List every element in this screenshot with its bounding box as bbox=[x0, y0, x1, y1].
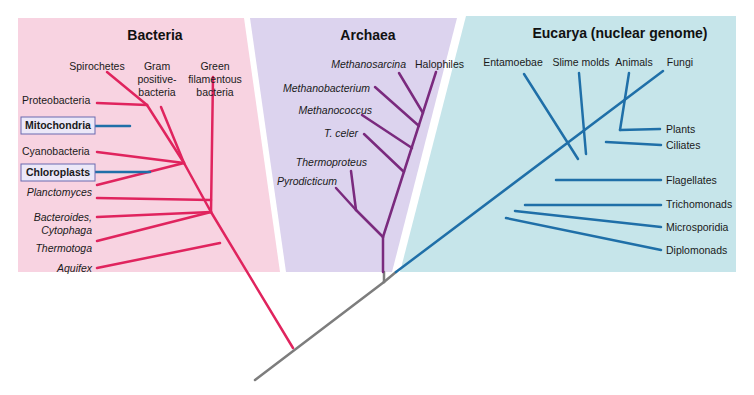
label-green-2: filamentous bbox=[188, 73, 242, 85]
label-slime-molds: Slime molds bbox=[552, 56, 609, 68]
label-aquifex: Aquifex bbox=[56, 262, 93, 274]
label-t-celer: T. celer bbox=[324, 127, 359, 139]
label-spirochetes: Spirochetes bbox=[69, 60, 124, 72]
label-cyanobacteria: Cyanobacteria bbox=[22, 145, 90, 157]
label-methanobacterium: Methanobacterium bbox=[283, 82, 370, 94]
label-microsporidia: Microsporidia bbox=[666, 221, 729, 233]
archaea-title: Archaea bbox=[340, 27, 395, 43]
label-cytophaga: Cytophaga bbox=[41, 224, 92, 236]
label-bacteroides: Bacteroides, bbox=[34, 211, 92, 223]
bacteria-title: Bacteria bbox=[127, 27, 182, 43]
label-diplomonads: Diplomonads bbox=[666, 244, 727, 256]
label-mitochondria: Mitochondria bbox=[25, 119, 91, 131]
label-animals: Animals bbox=[615, 56, 652, 68]
label-gram-3: bacteria bbox=[138, 86, 176, 98]
label-entamoebae: Entamoebae bbox=[483, 56, 543, 68]
label-green-1: Green bbox=[200, 60, 229, 72]
phylogenetic-tree: Bacteria Archaea Eucarya (nuclear genome… bbox=[0, 0, 754, 395]
label-pyrodicticum: Pyrodicticum bbox=[277, 175, 337, 187]
label-ciliates: Ciliates bbox=[666, 139, 700, 151]
label-fungi: Fungi bbox=[667, 56, 693, 68]
label-trichomonads: Trichomonads bbox=[666, 198, 732, 210]
label-flagellates: Flagellates bbox=[666, 174, 717, 186]
label-gram-1: Gram bbox=[144, 60, 171, 72]
label-methanosarcina: Methanosarcina bbox=[331, 58, 406, 70]
root-branches bbox=[255, 272, 396, 380]
label-plants: Plants bbox=[666, 123, 695, 135]
label-planctomyces: Planctomyces bbox=[27, 186, 93, 198]
label-thermoproteus: Thermoproteus bbox=[296, 156, 368, 168]
label-halophiles: Halophiles bbox=[415, 58, 464, 70]
label-proteobacteria: Proteobacteria bbox=[22, 94, 90, 106]
label-methanococcus: Methanococcus bbox=[298, 104, 372, 116]
label-thermotoga: Thermotoga bbox=[35, 242, 92, 254]
eucarya-title: Eucarya (nuclear genome) bbox=[532, 25, 707, 41]
label-green-3: bacteria bbox=[196, 86, 234, 98]
label-chloroplasts: Chloroplasts bbox=[26, 166, 90, 178]
label-gram-2: positive- bbox=[137, 73, 177, 85]
